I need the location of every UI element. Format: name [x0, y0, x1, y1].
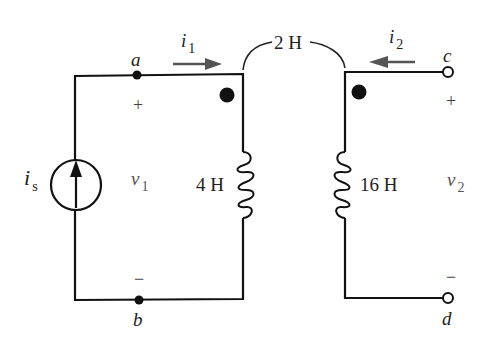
- circuit-schematic: [0, 0, 484, 348]
- is-subscript: s: [32, 179, 37, 194]
- v2-minus-sign: −: [446, 268, 456, 286]
- terminal-c-label: c: [443, 46, 451, 65]
- source-label: is: [24, 167, 38, 189]
- inductor-16h-label: 16 H: [360, 175, 397, 194]
- terminal-d: [443, 293, 453, 303]
- i1-subscript: 1: [188, 41, 195, 56]
- inductor-4h-coil: [237, 152, 253, 218]
- inductor-16h-coil: [335, 152, 351, 218]
- v1-subscript: 1: [141, 179, 148, 194]
- node-b-label: b: [133, 310, 143, 329]
- i2-symbol: i: [389, 26, 394, 47]
- i1-symbol: i: [181, 30, 186, 51]
- v2-subscript: 2: [457, 180, 464, 195]
- v1-minus-sign: −: [134, 270, 144, 288]
- v2-symbol: v: [447, 169, 455, 190]
- polarity-dot-right: [352, 85, 367, 100]
- circuit-diagram: 2 H a b c d i1 i2 is v1 v2 + − + − 4 H 1…: [0, 0, 484, 348]
- terminal-d-label: d: [442, 309, 452, 328]
- node-b-dot: [135, 296, 144, 305]
- mutual-inductance-label: 2 H: [274, 33, 302, 52]
- terminal-c: [443, 67, 453, 77]
- mutual-coupling-arc: [243, 42, 272, 70]
- node-a-label: a: [131, 50, 141, 69]
- node-a-dot: [133, 71, 142, 80]
- mutual-coupling-arc-right: [310, 42, 345, 68]
- i2-arrowhead: [369, 56, 388, 68]
- i2-subscript: 2: [396, 37, 403, 52]
- is-symbol: i: [24, 165, 30, 190]
- polarity-dot-left: [220, 88, 235, 103]
- v1-plus-sign: +: [133, 96, 143, 114]
- i2-label: i2: [389, 27, 403, 46]
- v2-label: v2: [447, 170, 464, 189]
- v1-label: v1: [131, 169, 148, 188]
- inductor-4h-label: 4 H: [196, 175, 224, 194]
- i1-label: i1: [181, 31, 195, 50]
- i1-arrowhead: [205, 58, 222, 70]
- v1-symbol: v: [131, 168, 139, 189]
- v2-plus-sign: +: [446, 92, 456, 110]
